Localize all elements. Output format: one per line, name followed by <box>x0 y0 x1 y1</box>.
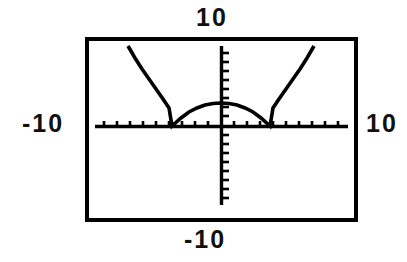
plot-viewport <box>85 37 358 222</box>
x-min-label: -10 <box>22 111 64 136</box>
y-max-label: 10 <box>196 5 228 30</box>
x-max-label: 10 <box>366 111 398 136</box>
calculator-screen: 10 -10 10 -10 <box>0 0 407 262</box>
y-min-label: -10 <box>184 227 226 252</box>
